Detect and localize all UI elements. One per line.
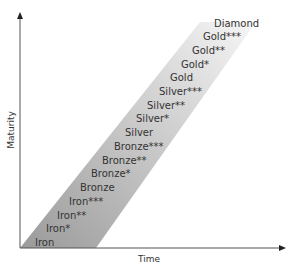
level-label: Iron*	[46, 223, 70, 234]
level-label: Bronze**	[102, 155, 147, 166]
level-label: Gold*	[181, 59, 209, 70]
level-label: Bronze	[80, 182, 115, 193]
y-axis-label: Maturity	[6, 111, 16, 149]
level-label: Silver*	[136, 113, 169, 124]
x-axis-label: Time	[137, 254, 160, 264]
y-axis-arrow-icon	[17, 12, 23, 19]
level-label: Iron***	[69, 196, 103, 207]
x-axis-arrow-icon	[279, 245, 286, 251]
maturity-diagram: Maturity Time Iron Iron* Iron** Iron*** …	[0, 0, 291, 273]
level-label: Gold***	[203, 31, 241, 42]
level-label: Diamond	[214, 18, 259, 29]
level-label: Bronze***	[114, 141, 164, 152]
level-label: Gold	[170, 72, 193, 83]
level-label: Silver***	[159, 86, 202, 97]
level-label: Iron**	[57, 210, 86, 221]
level-label: Silver	[125, 127, 154, 138]
level-label: Bronze*	[91, 168, 131, 179]
level-label: Iron	[35, 237, 54, 248]
level-label: Silver**	[147, 100, 185, 111]
level-label: Gold**	[192, 45, 225, 56]
